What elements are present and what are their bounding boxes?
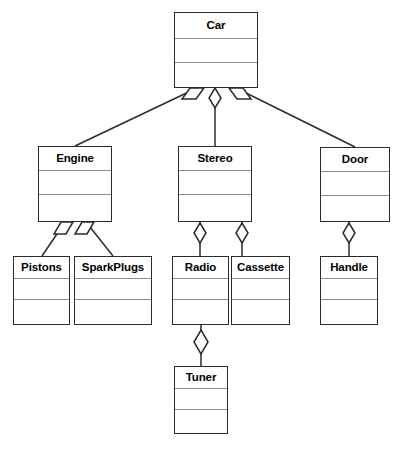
uml-class-radio[interactable]: Radio [172,256,229,325]
edge-car-engine [75,88,197,146]
class-operations-compartment [75,300,151,324]
uml-class-sparkplugs[interactable]: SparkPlugs [74,256,152,325]
class-attributes-compartment [14,279,69,300]
uml-class-diagram: Car Engine Stereo Door Pistons [0,0,403,455]
aggregation-diamond-stereo-radio [194,223,206,243]
class-name-compartment: Handle [321,257,377,279]
class-attributes-compartment [179,171,251,195]
class-name-compartment: Door [321,148,389,172]
class-name-label: Car [207,20,226,32]
class-name-compartment: Radio [173,257,228,279]
aggregation-diamond-car-stereo [209,88,221,108]
uml-class-handle[interactable]: Handle [320,256,378,325]
class-name-label: Engine [56,153,94,165]
class-operations-compartment [39,195,111,221]
aggregation-diamond-car-door [229,88,251,99]
uml-class-engine[interactable]: Engine [38,146,112,222]
class-name-compartment: Car [175,13,257,39]
uml-class-cassette[interactable]: Cassette [231,256,290,325]
class-attributes-compartment [321,172,389,196]
aggregation-diamond-engine-sparkplugs [75,222,94,234]
figure-caption [0,446,403,455]
class-name-compartment: Stereo [179,147,251,171]
aggregation-diamond-car-engine [182,88,204,99]
class-operations-compartment [179,195,251,221]
class-operations-compartment [321,196,389,221]
class-attributes-compartment [321,279,377,300]
uml-class-stereo[interactable]: Stereo [178,146,252,222]
uml-class-pistons[interactable]: Pistons [13,256,70,325]
class-operations-compartment [175,63,257,87]
class-name-label: Door [342,154,368,166]
aggregation-diamond-door-handle [343,223,355,243]
class-attributes-compartment [173,279,228,300]
class-name-compartment: Cassette [232,257,289,279]
class-name-label: Handle [330,262,368,274]
class-operations-compartment [175,410,227,433]
class-attributes-compartment [232,279,289,300]
class-name-label: Cassette [237,262,284,274]
class-operations-compartment [321,300,377,324]
uml-class-door[interactable]: Door [320,147,390,222]
edge-car-door [236,88,355,147]
class-operations-compartment [232,300,289,324]
class-name-label: Pistons [21,262,62,274]
class-name-label: Tuner [186,372,217,384]
class-attributes-compartment [175,389,227,410]
aggregation-diamond-engine-pistons [54,222,73,234]
class-attributes-compartment [175,39,257,63]
uml-class-tuner[interactable]: Tuner [174,366,228,434]
class-attributes-compartment [75,279,151,300]
class-operations-compartment [173,300,228,324]
aggregation-diamond-radio-tuner [194,330,208,354]
class-name-label: SparkPlugs [82,262,144,274]
class-attributes-compartment [39,171,111,195]
class-operations-compartment [14,300,69,324]
class-name-compartment: Tuner [175,367,227,389]
class-name-compartment: SparkPlugs [75,257,151,279]
uml-class-car[interactable]: Car [174,12,258,88]
class-name-label: Stereo [197,153,232,165]
class-name-label: Radio [185,262,216,274]
class-name-compartment: Engine [39,147,111,171]
aggregation-diamond-stereo-cassette [236,223,248,243]
class-name-compartment: Pistons [14,257,69,279]
